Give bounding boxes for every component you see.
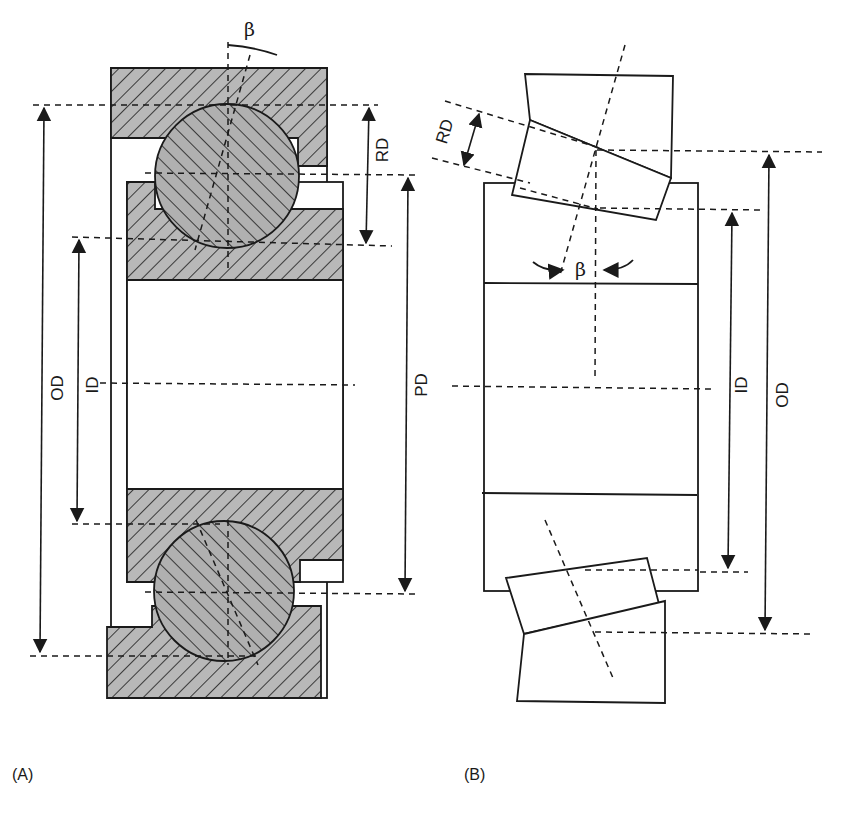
rd-label-b: RD (432, 117, 457, 146)
id-label-a: ID (83, 377, 102, 394)
ball-bottom (154, 521, 294, 661)
rd-dimension-b (464, 114, 479, 165)
od-dimension-a (40, 108, 44, 652)
ball-top (155, 104, 299, 248)
od-dimension-b (765, 155, 769, 630)
caption-a: (A) (12, 766, 33, 783)
id-dimension-a (77, 240, 79, 521)
bearing-diagram: β OD ID RD PD (A) (0, 0, 853, 815)
pd-dimension-a (405, 178, 408, 591)
rd-label-a: RD (373, 138, 392, 163)
cone (484, 183, 698, 591)
beta-label-b: β (575, 258, 586, 280)
id-label-b: ID (732, 377, 751, 394)
pd-label-a: PD (412, 373, 431, 397)
beta-label-a: β (244, 18, 255, 40)
od-label-a: OD (48, 375, 67, 401)
panel-b: RD β ID OD (B) (432, 45, 822, 783)
panel-a: β OD ID RD PD (A) (12, 18, 431, 783)
contact-angle-arc-a (228, 45, 277, 55)
caption-b: (B) (464, 766, 485, 783)
od-label-b: OD (773, 382, 792, 408)
rd-dimension-a (366, 108, 369, 243)
